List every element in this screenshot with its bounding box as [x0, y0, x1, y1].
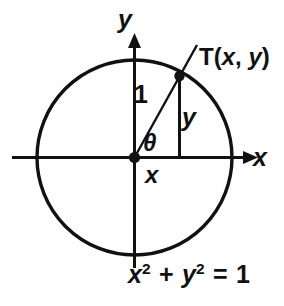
circle-equation-label: x2 + y2 = 1 — [128, 262, 250, 287]
equation-term2-exponent: 2 — [196, 260, 205, 277]
point-t-close-paren: ) — [262, 43, 270, 70]
equation-equals-operator: = — [213, 260, 228, 288]
equation-term1-exponent: 2 — [142, 260, 151, 277]
point-t-comma: , — [235, 43, 248, 70]
x-axis-label: x — [253, 145, 267, 170]
y-axis-label: y — [118, 7, 132, 32]
equation-term2-base: y — [182, 260, 196, 288]
y-leg-label: y — [182, 105, 196, 130]
point-t-marker — [174, 71, 184, 81]
origin-marker — [129, 152, 140, 163]
equation-rhs-value: 1 — [236, 260, 250, 288]
point-t-open-paren: ( — [214, 43, 222, 70]
point-t-name: T — [199, 43, 214, 70]
y-axis-arrowhead-icon — [128, 33, 141, 48]
equation-plus-operator: + — [159, 260, 174, 288]
equation-term1-base: x — [128, 260, 142, 288]
point-t-label: T(x, y) — [199, 45, 270, 69]
x-leg-label: x — [145, 163, 158, 187]
theta-angle-label: θ — [143, 131, 156, 155]
radius-length-label: 1 — [134, 82, 148, 107]
point-t-coord-x: x — [222, 43, 235, 70]
unit-circle-figure: y x T(x, y) 1 θ x y x2 + y2 = 1 — [0, 0, 284, 306]
point-t-coord-y: y — [248, 43, 261, 70]
